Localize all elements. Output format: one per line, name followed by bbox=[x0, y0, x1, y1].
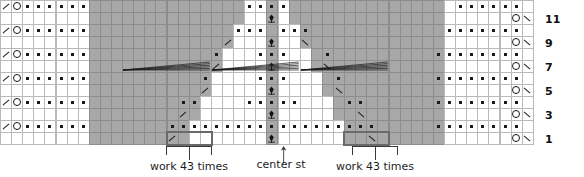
row-number-label: 1 bbox=[545, 133, 553, 145]
repeat-box-left[interactable] bbox=[166, 131, 213, 146]
row-number-label: 3 bbox=[545, 109, 553, 121]
knitting-chart-root: work 43 timeswork 43 timescenter st11975… bbox=[0, 0, 584, 177]
chart-cell[interactable] bbox=[522, 132, 534, 145]
row-number-label: 9 bbox=[545, 37, 553, 49]
row-number-label: 7 bbox=[545, 61, 553, 73]
gathered-stitch-fan-icon bbox=[211, 60, 300, 72]
repeat-box-right[interactable] bbox=[343, 131, 390, 146]
row-number-label: 11 bbox=[545, 13, 560, 25]
gathered-stitch-fan-icon bbox=[300, 60, 389, 72]
row-number-label: 5 bbox=[545, 85, 553, 97]
center-stitch-label: center st bbox=[236, 158, 326, 171]
work-repeat-label-right: work 43 times bbox=[306, 160, 444, 173]
gathered-stitch-fan-icon bbox=[122, 60, 211, 72]
